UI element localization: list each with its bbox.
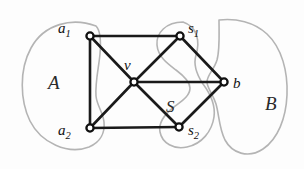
region-label-S: S: [166, 97, 175, 116]
graph-canvas: a1 a2 v s1 s2 b A S B: [0, 0, 304, 169]
edge-s2-b: [179, 82, 224, 127]
node-b[interactable]: [220, 78, 227, 85]
node-a1[interactable]: [86, 32, 93, 39]
vertex-label-s2: s2: [188, 122, 200, 141]
node-s1[interactable]: [176, 32, 183, 39]
graph-edges: [90, 36, 224, 128]
node-v[interactable]: [130, 78, 137, 85]
node-s2[interactable]: [175, 123, 182, 130]
vertex-label-a2: a2: [58, 122, 72, 141]
graph-figure: a1 a2 v s1 s2 b A S B: [0, 0, 304, 169]
vertex-label-v: v: [124, 57, 131, 73]
vertex-labels: a1 a2 v s1 s2 b: [58, 20, 241, 141]
node-a2[interactable]: [86, 124, 93, 131]
region-label-A: A: [46, 72, 60, 93]
edge-a2-s2: [90, 127, 179, 128]
vertex-label-b: b: [233, 75, 241, 91]
region-label-B: B: [265, 93, 277, 114]
vertex-label-s1: s1: [188, 20, 199, 39]
